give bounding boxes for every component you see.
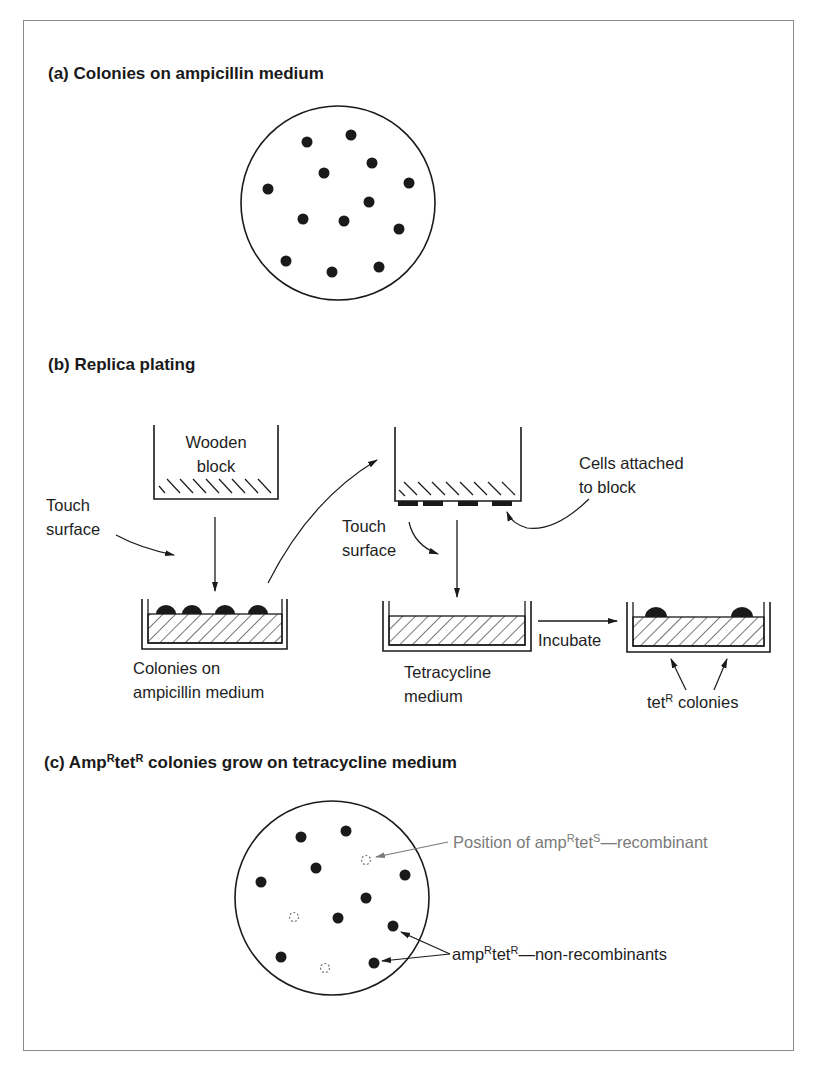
colony-dot — [339, 216, 350, 227]
colony-dot — [298, 214, 309, 225]
colony-dot — [276, 952, 287, 963]
panel-a: (a) Colonies on ampicillin medium — [48, 64, 435, 300]
touch-surface-1-arrow — [116, 535, 174, 555]
touch-surface-1-line1: Touch — [46, 496, 90, 514]
tetracycline-plate — [235, 801, 429, 995]
colony-dot — [281, 256, 292, 267]
colony-dot — [327, 267, 338, 278]
missing-colony-positions — [290, 856, 371, 973]
wooden-block-1: Wooden block — [154, 425, 278, 499]
colony-dot — [333, 913, 344, 924]
ampicillin-dish-label-2: ampicillin medium — [133, 683, 264, 701]
colony-dot — [374, 262, 385, 273]
ampicillin-dish-label-1: Colonies on — [133, 659, 220, 677]
colony-dot — [263, 184, 274, 195]
touch-surface-2-line2: surface — [342, 541, 396, 559]
tet-resistant-colonies — [645, 607, 753, 617]
nonrecombinant-arrow-2 — [382, 954, 450, 961]
colony-dot — [404, 178, 415, 189]
panel-a-title: (a) Colonies on ampicillin medium — [48, 64, 324, 83]
touch-surface-2-line1: Touch — [342, 517, 386, 535]
ampicillin-medium — [148, 614, 282, 643]
tetracycline-dish-label-2: medium — [404, 687, 463, 705]
incubate-label: Incubate — [538, 631, 601, 649]
replica-plating-figure: (a) Colonies on ampicillin medium (b) Re… — [0, 0, 815, 1081]
colony-dot — [400, 870, 411, 881]
panel-c: (c) AmpRtetR colonies grow on tetracycli… — [44, 752, 708, 995]
colony-dot — [341, 826, 352, 837]
ampicillin-plate — [241, 106, 435, 300]
block-hatch — [159, 479, 271, 493]
tetracycline-dish: Tetracycline medium — [383, 601, 531, 705]
colony-dot — [369, 958, 380, 969]
tetracycline-medium — [389, 616, 525, 645]
tet-colony-arrow-1 — [671, 659, 686, 690]
tetracycline-medium-2 — [633, 617, 764, 646]
missing-colony-marker — [362, 856, 371, 865]
panel-b: (b) Replica plating Wooden block Touch s… — [46, 355, 770, 711]
ampicillin-dish: Colonies on ampicillin medium — [133, 599, 287, 701]
panel-b-title: (b) Replica plating — [48, 355, 195, 374]
colony-dot — [319, 168, 330, 179]
colony-dot — [361, 893, 372, 904]
colony-dot — [302, 137, 313, 148]
wooden-block-label-2: block — [197, 457, 236, 475]
colony-dot — [394, 224, 405, 235]
cells-attached-arrow — [507, 499, 589, 528]
colony-dot — [311, 863, 322, 874]
missing-colony-marker — [321, 964, 330, 973]
colony-dot — [296, 832, 307, 843]
colony-dot — [256, 877, 267, 888]
colony-dot — [364, 197, 375, 208]
nonrecombinant-arrow-1 — [401, 932, 450, 954]
colony-dot — [367, 158, 378, 169]
colony-dot — [388, 921, 399, 932]
cells-attached-label-1: Cells attached — [579, 454, 684, 472]
tet-colony-arrow-2 — [714, 659, 727, 690]
tet-colonies-label: tetR colonies — [647, 692, 738, 711]
tet-resistant-dish: tetR colonies — [627, 602, 770, 711]
tetracycline-dish-label-1: Tetracycline — [404, 663, 491, 681]
tetracycline-plate-colonies — [256, 826, 411, 969]
cells-attached-label-2: to block — [579, 478, 637, 496]
dish-colonies — [156, 605, 268, 614]
colony-dot — [346, 130, 357, 141]
wooden-block-label-1: Wooden — [185, 433, 246, 451]
nonrecombinant-label: ampRtetR—non-recombinants — [452, 944, 667, 963]
panel-c-title: (c) AmpRtetR colonies grow on tetracycli… — [44, 752, 457, 772]
touch-surface-2-arrow — [409, 522, 438, 554]
touch-surface-1-line2: surface — [46, 520, 100, 538]
missing-colony-marker — [290, 913, 299, 922]
ampicillin-colonies — [263, 130, 415, 278]
wooden-block-2 — [395, 427, 521, 506]
recombinant-label: Position of ampRtetS—recombinant — [453, 832, 708, 851]
